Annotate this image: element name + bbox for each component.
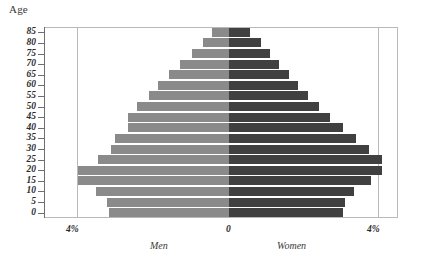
bar-men-age-70 — [180, 60, 229, 69]
population-pyramid-chart: Age 8580757065605550454035302520151050 4… — [0, 0, 430, 263]
series-label-men: Men — [150, 240, 168, 251]
bar-women-age-25 — [229, 155, 382, 164]
bar-men-age-15 — [78, 176, 229, 185]
bar-women-age-65 — [229, 70, 289, 79]
bar-women-age-50 — [229, 102, 319, 111]
bar-men-age-45 — [128, 113, 229, 122]
bar-men-age-0 — [109, 208, 229, 217]
bar-women-age-40 — [229, 123, 343, 132]
bar-men-age-40 — [128, 123, 229, 132]
bar-men-age-5 — [107, 198, 229, 207]
bar-women-age-80 — [229, 38, 261, 47]
bar-women-age-35 — [229, 134, 356, 143]
series-label-women: Women — [277, 240, 306, 251]
bar-men-age-35 — [115, 134, 229, 143]
bars-layer — [0, 0, 430, 263]
x-tick-right-label: 4% — [367, 224, 380, 234]
x-tick-center-label: 0 — [226, 224, 231, 234]
bar-men-age-85 — [212, 28, 229, 37]
bar-men-age-30 — [111, 145, 229, 154]
bar-men-age-80 — [203, 38, 229, 47]
bar-women-age-0 — [229, 208, 343, 217]
bar-men-age-60 — [158, 81, 229, 90]
bar-women-age-70 — [229, 60, 279, 69]
bar-women-age-5 — [229, 198, 345, 207]
bar-men-age-55 — [149, 91, 229, 100]
bar-women-age-30 — [229, 145, 369, 154]
bar-women-age-10 — [229, 187, 354, 196]
bar-men-age-20 — [78, 166, 229, 175]
bar-women-age-60 — [229, 81, 298, 90]
bar-women-age-55 — [229, 91, 308, 100]
bar-women-age-20 — [229, 166, 382, 175]
bar-men-age-75 — [192, 49, 229, 58]
bar-women-age-75 — [229, 49, 270, 58]
bar-women-age-15 — [229, 176, 371, 185]
bar-women-age-45 — [229, 113, 330, 122]
bar-men-age-10 — [96, 187, 229, 196]
bar-men-age-25 — [98, 155, 229, 164]
x-tick-left-label: 4% — [66, 224, 79, 234]
bar-women-age-85 — [229, 28, 250, 37]
bar-men-age-65 — [169, 70, 229, 79]
bar-men-age-50 — [137, 102, 229, 111]
